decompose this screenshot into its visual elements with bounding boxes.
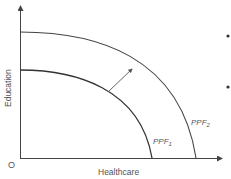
bullet-1 bbox=[226, 34, 229, 37]
bullet-2 bbox=[226, 85, 229, 88]
ppf1-curve bbox=[20, 70, 152, 158]
x-axis-label: Healthcare bbox=[98, 167, 139, 177]
ppf2-label: PPF2 bbox=[191, 118, 211, 128]
ppf1-label: PPF1 bbox=[153, 137, 172, 147]
ppf2-curve bbox=[20, 32, 196, 158]
ppf-diagram: O Healthcare Education PPF2 PPF1 bbox=[0, 0, 231, 179]
shift-arrow bbox=[108, 69, 132, 92]
origin-label: O bbox=[8, 160, 15, 170]
y-axis-label: Education bbox=[3, 69, 13, 107]
